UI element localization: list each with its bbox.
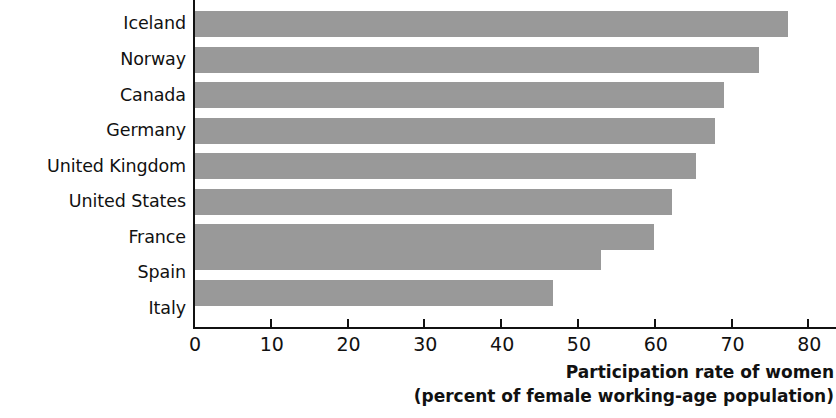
x-axis-tick [807,319,809,328]
bar [194,244,601,270]
y-axis-line [193,0,195,329]
x-axis-tick-label: 20 [319,333,379,356]
category-label: Italy [0,298,186,318]
plot-area [194,0,836,330]
x-axis-tick-label: 40 [472,333,532,356]
bar [194,280,553,306]
bar [194,11,788,37]
x-axis-title: Participation rate of women [134,362,834,383]
x-axis-tick [731,319,733,328]
bar [194,118,715,144]
category-label: Germany [0,120,186,140]
category-label: Iceland [0,13,186,33]
category-label: Canada [0,85,186,105]
bar [194,153,696,179]
category-label: Spain [0,262,186,282]
x-axis-tick [577,319,579,328]
category-axis-labels: Iceland Norway Canada Germany United Kin… [0,0,186,330]
x-axis-line [193,327,836,329]
x-axis-tick [193,319,195,328]
bar [194,82,724,108]
category-label: France [0,227,186,247]
category-label: United Kingdom [0,156,186,176]
bar-chart: Iceland Norway Canada Germany United Kin… [0,0,836,418]
bar [194,189,672,215]
x-axis-tick [347,319,349,328]
x-axis-tick-label: 50 [549,333,609,356]
x-axis-tick-label: 0 [165,333,225,356]
x-axis-tick-label: 80 [779,333,836,356]
category-label: Norway [0,49,186,69]
x-axis-tick [423,319,425,328]
x-axis-tick [654,319,656,328]
bar [194,47,759,73]
x-axis-tick-label: 60 [626,333,686,356]
x-axis-tick-label: 30 [395,333,455,356]
x-axis-tick-label: 70 [703,333,763,356]
x-axis-title-subtitle: (percent of female working-age populatio… [134,386,834,407]
x-axis-tick-label: 10 [242,333,302,356]
category-label: United States [0,191,186,211]
x-axis-tick [270,319,272,328]
x-axis-tick [500,319,502,328]
